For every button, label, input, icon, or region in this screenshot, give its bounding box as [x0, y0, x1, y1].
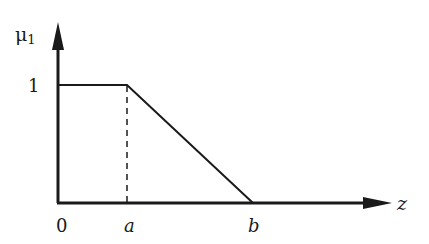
x-tick-a: a — [124, 215, 135, 236]
x-axis-label: z — [396, 192, 408, 214]
membership-diagram: μ1 1 0 a b z — [0, 0, 429, 244]
x-axis-arrow-icon — [363, 197, 392, 209]
x-tick-origin: 0 — [56, 215, 67, 236]
membership-curve — [58, 85, 253, 203]
y-axis-label: μ1 — [15, 23, 36, 47]
x-tick-b: b — [248, 215, 260, 236]
y-tick-one: 1 — [28, 75, 39, 96]
y-axis-arrow-icon — [52, 22, 64, 50]
